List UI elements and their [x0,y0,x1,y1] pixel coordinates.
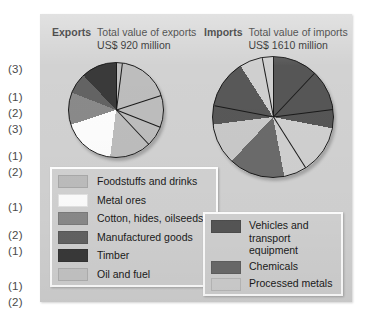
legend-item: Processed metals [211,277,334,291]
exports-heading: Exports [52,26,91,38]
exports-subtitle-line1: Total value of exports [97,26,196,39]
imports-pie-chart [212,56,334,178]
figure-panel: Exports Total value of exports US$ 920 m… [40,14,352,302]
imports-pie-circle [212,56,334,178]
margin-mark: (1) [8,150,23,162]
imports-heading: Imports [204,26,243,38]
margin-mark: (2) [8,107,23,119]
legend-swatch [58,212,88,225]
legend-item: Cotton, hides, oilseeds [58,211,209,226]
legend-swatch [58,194,88,207]
legend-swatch [211,261,241,274]
legend-label: Manufactured goods [97,231,193,244]
pie-wedge-divider [116,95,161,110]
imports-subtitle-line1: Total value of imports [249,26,348,39]
margin-mark: (1) [8,245,23,257]
exports-header: Exports Total value of exports US$ 920 m… [52,26,196,51]
legend-item: Metal ores [58,193,209,208]
pie-wedge-divider [273,117,306,168]
pie-wedge-divider [273,109,333,118]
pie-wedge-divider [116,63,117,110]
legend-label: Vehicles and transport equipment [249,219,334,257]
legend-label: Oil and fuel [97,268,150,281]
margin-mark: (2) [8,166,23,178]
exports-subtitle-line2: US$ 920 million [97,39,196,52]
legend-label: Processed metals [249,277,332,290]
legend-item: Chemicals [211,260,334,274]
imports-subtitle-line2: US$ 1610 million [249,39,348,52]
legend-item: Manufactured goods [58,230,209,245]
pie-wedge-divider [116,63,123,110]
pie-wedge-divider [116,110,160,128]
legend-label: Metal ores [97,194,146,207]
legend-swatch [58,268,88,281]
exports-pie-circle [68,62,164,158]
legend-item: Vehicles and transport equipment [211,219,334,257]
margin-marks-column: (3)(1)(2)(3)(1)(2)(1)(2)(1)(1)(2) [0,0,40,313]
margin-mark: (1) [8,280,23,292]
legend-label: Timber [97,249,129,262]
margin-mark: (2) [8,296,23,308]
imports-header: Imports Total value of imports US$ 1610 … [204,26,348,51]
legend-swatch [58,175,88,188]
legend-item: Foodstuffs and drinks [58,174,209,189]
margin-mark: (2) [8,229,23,241]
margin-mark: (3) [8,63,23,75]
legend-item: Oil and fuel [58,267,209,282]
exports-pie-chart [68,62,164,158]
legend-label: Foodstuffs and drinks [97,175,197,188]
margin-mark: (3) [8,123,23,135]
exports-legend: Foodstuffs and drinksMetal oresCotton, h… [50,167,218,287]
pie-wedge-divider [214,105,273,117]
legend-item: Timber [58,248,209,263]
legend-label: Cotton, hides, oilseeds [97,212,203,225]
legend-swatch [211,278,241,291]
legend-label: Chemicals [249,260,298,273]
margin-mark: (1) [8,201,23,213]
margin-mark: (1) [8,91,23,103]
legend-swatch [58,231,88,244]
legend-swatch [58,249,88,262]
pie-wedge-divider [273,57,274,117]
legend-swatch [211,220,241,233]
pie-wedge-divider [273,73,315,117]
imports-legend: Vehicles and transport equipmentChemical… [203,212,343,296]
